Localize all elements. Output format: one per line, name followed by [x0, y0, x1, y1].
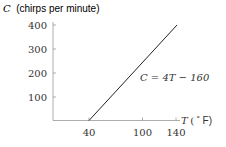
x-axis-unit: F) [203, 115, 212, 126]
y-axis-label: C (chirps per minute) [3, 3, 100, 14]
x-tick-100: 100 [133, 127, 152, 138]
equation-annotation: C = 4T − 160 [140, 72, 210, 83]
y-tick-200: 200 [28, 68, 47, 79]
y-axis-unit: (chirps per minute) [16, 3, 99, 14]
x-tick-labels: 40 100 140 [83, 127, 186, 138]
x-tick-40: 40 [83, 127, 96, 138]
x-axis-variable: T [181, 115, 189, 126]
y-tick-400: 400 [28, 20, 47, 31]
y-tick-300: 300 [28, 44, 47, 55]
x-ticks [89, 118, 176, 121]
y-ticks [53, 25, 56, 97]
y-tick-labels: 400 300 200 100 [28, 20, 47, 103]
x-axis-label: T ( ° F) [181, 112, 212, 126]
y-axis-variable: C [3, 3, 11, 14]
y-tick-100: 100 [28, 92, 47, 103]
x-tick-140: 140 [166, 127, 185, 138]
chart: C (chirps per minute) 400 300 200 100 40… [0, 0, 226, 147]
